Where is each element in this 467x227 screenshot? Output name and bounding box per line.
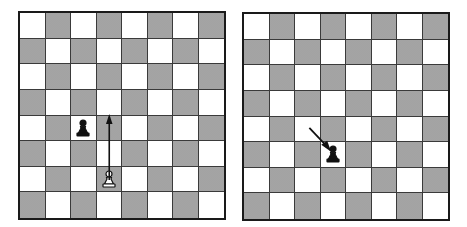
square-r3-c7 [423,91,449,117]
square-r2-c4 [122,64,148,90]
square-r7-c2 [295,193,321,219]
square-r0-c2 [295,14,321,40]
square-r1-c0 [20,39,46,65]
square-r1-c6 [397,40,423,66]
square-r2-c0 [244,65,270,91]
square-r1-c2 [71,39,97,65]
square-r7-c7 [423,193,449,219]
board-grid [20,13,224,218]
square-r1-c3 [321,40,347,66]
square-r7-c3 [321,193,347,219]
square-r6-c6 [397,168,423,194]
square-r6-c7 [423,168,449,194]
white-pawn-icon [97,167,122,192]
square-r7-c7 [199,192,225,218]
square-r5-c1 [46,141,72,167]
square-r4-c2 [71,116,97,142]
square-r6-c6 [173,167,199,193]
square-r5-c2 [71,141,97,167]
square-r0-c7 [423,14,449,40]
square-r0-c6 [397,14,423,40]
square-r0-c5 [372,14,398,40]
square-r4-c2 [295,117,321,143]
square-r1-c4 [346,40,372,66]
square-r5-c7 [423,142,449,168]
square-r4-c5 [148,116,174,142]
square-r3-c1 [46,90,72,116]
square-r5-c6 [397,142,423,168]
square-r4-c7 [423,117,449,143]
square-r2-c5 [372,65,398,91]
square-r7-c2 [71,192,97,218]
square-r0-c2 [71,13,97,39]
square-r5-c5 [372,142,398,168]
square-r7-c4 [346,193,372,219]
square-r5-c1 [270,142,296,168]
square-r1-c7 [423,40,449,66]
square-r3-c0 [20,90,46,116]
square-r3-c4 [346,91,372,117]
square-r0-c1 [46,13,72,39]
square-r7-c5 [148,192,174,218]
square-r6-c5 [372,168,398,194]
square-r4-c3 [97,116,123,142]
square-r5-c3 [321,142,347,168]
square-r7-c0 [244,193,270,219]
square-r2-c6 [397,65,423,91]
square-r6-c5 [148,167,174,193]
square-r0-c7 [199,13,225,39]
square-r1-c6 [173,39,199,65]
square-r7-c3 [97,192,123,218]
square-r6-c1 [46,167,72,193]
square-r6-c2 [71,167,97,193]
square-r0-c5 [148,13,174,39]
square-r2-c1 [46,64,72,90]
square-r1-c2 [295,40,321,66]
square-r4-c1 [270,117,296,143]
square-r6-c3 [321,168,347,194]
square-r6-c3 [97,167,123,193]
square-r7-c1 [270,193,296,219]
square-r7-c5 [372,193,398,219]
square-r5-c7 [199,141,225,167]
black-pawn-icon [321,142,346,167]
square-r2-c7 [199,64,225,90]
square-r2-c1 [270,65,296,91]
square-r3-c1 [270,91,296,117]
square-r4-c6 [397,117,423,143]
black-pawn-icon [71,116,96,141]
square-r2-c3 [321,65,347,91]
square-r4-c7 [199,116,225,142]
square-r5-c3 [97,141,123,167]
square-r7-c6 [173,192,199,218]
square-r5-c5 [148,141,174,167]
square-r1-c3 [97,39,123,65]
square-r2-c4 [346,65,372,91]
board-grid [244,14,448,219]
square-r6-c0 [244,168,270,194]
square-r7-c4 [122,192,148,218]
chessboard-right [242,12,450,221]
square-r5-c0 [244,142,270,168]
square-r4-c4 [346,117,372,143]
square-r2-c5 [148,64,174,90]
square-r4-c0 [20,116,46,142]
square-r1-c1 [46,39,72,65]
square-r3-c6 [173,90,199,116]
chessboard-left [18,11,226,220]
square-r1-c5 [148,39,174,65]
square-r6-c4 [122,167,148,193]
square-r0-c0 [20,13,46,39]
square-r0-c3 [321,14,347,40]
square-r3-c3 [97,90,123,116]
square-r5-c4 [346,142,372,168]
square-r2-c2 [71,64,97,90]
square-r3-c7 [199,90,225,116]
square-r6-c4 [346,168,372,194]
square-r5-c6 [173,141,199,167]
square-r1-c4 [122,39,148,65]
square-r2-c6 [173,64,199,90]
square-r6-c0 [20,167,46,193]
square-r6-c7 [199,167,225,193]
square-r2-c3 [97,64,123,90]
